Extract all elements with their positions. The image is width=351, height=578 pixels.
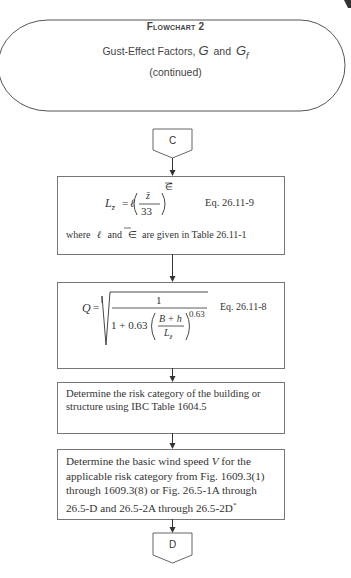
- box-risk-text: Determine the risk category of the build…: [66, 387, 281, 413]
- q-lhs: Q: [82, 301, 91, 316]
- q-den-prefix: 1 + 0.63: [111, 319, 147, 331]
- risk-line-1: Determine the risk category of the build…: [66, 387, 281, 400]
- symbol-g: G: [198, 43, 208, 58]
- lz-lhs: Lz̄: [105, 196, 115, 212]
- arrow-down-icon: [170, 527, 176, 533]
- connector-c-label: C: [153, 135, 192, 146]
- lz-exponent: ∈̄: [165, 182, 173, 192]
- wind-line-3: through 1609.3(8) or Fig. 26.5-1A throug…: [66, 483, 281, 498]
- title-text: Gust-Effect Factors,: [102, 45, 195, 57]
- wind-line-4: 26.5-D and 26.5-2A through 26.5-2D*: [66, 498, 281, 515]
- lz-ell: ℓ: [130, 197, 135, 209]
- wind-line-1: Determine the basic wind speed V for the: [66, 454, 281, 469]
- q-inner-num: B + h: [159, 313, 182, 324]
- q-exponent: 0.63: [189, 309, 205, 319]
- box-wind-text: Determine the basic wind speed V for the…: [66, 454, 281, 515]
- box-q-border: [58, 283, 285, 369]
- q-inner-den: Lz̄: [164, 327, 172, 341]
- flowchart-title: Gust-Effect Factors, G and Gf: [0, 43, 351, 61]
- page-edge-mark: [344, 0, 351, 8]
- lz-eq-ref: Eq. 26.11-9: [205, 197, 254, 208]
- flowchart-number-label: Flowchart 2: [0, 21, 351, 32]
- lz-equals: =: [122, 197, 128, 209]
- arrow-down-icon: [170, 443, 176, 449]
- wind-line-2: applicable risk category from Fig. 1609.…: [66, 469, 281, 484]
- lz-note: where ℓ and ∈̄ are given in Table 26.11-…: [66, 229, 247, 240]
- arrow-down-icon: [170, 170, 176, 176]
- q-equals: =: [93, 301, 99, 313]
- risk-line-2: structure using IBC Table 1604.5: [66, 400, 281, 413]
- lz-frac-den: 33: [141, 205, 152, 217]
- arrow-down-icon: [170, 376, 176, 382]
- q-numerator: 1: [156, 294, 162, 306]
- continued-label: (continued): [0, 66, 351, 78]
- connector-d-label: D: [153, 539, 192, 550]
- q-eq-ref: Eq. 26.11-8: [220, 301, 267, 312]
- symbol-gf: Gf: [236, 43, 249, 58]
- lz-frac-num: z̄: [146, 190, 150, 201]
- arrow-down-icon: [170, 276, 176, 282]
- and-text: and: [214, 45, 232, 57]
